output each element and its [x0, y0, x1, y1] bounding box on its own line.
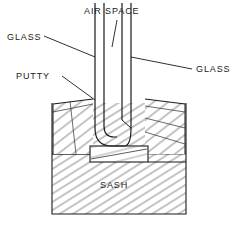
label-air-space: AIR SPACE: [84, 6, 139, 16]
label-glass-left: GLASS: [7, 32, 42, 42]
leader-lines: [44, 20, 192, 100]
label-sash: SASH: [100, 180, 128, 190]
leader-glass-right: [131, 57, 192, 69]
leader-glass-left: [44, 36, 95, 57]
leader-air-space: [112, 20, 117, 47]
setting-block: [88, 144, 150, 164]
window-section-drawing: AIR SPACE GLASS GLASS PUTTY SASH: [0, 0, 236, 227]
label-putty: PUTTY: [16, 71, 50, 81]
label-glass-right: GLASS: [196, 64, 231, 74]
leader-putty: [62, 76, 95, 100]
diagram-canvas: AIR SPACE GLASS GLASS PUTTY SASH: [0, 0, 236, 227]
